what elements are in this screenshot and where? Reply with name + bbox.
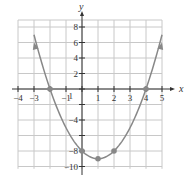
x-tick-label: −4 (13, 93, 23, 103)
y-tick-label: 2 (74, 69, 79, 79)
x-axis-label: x (178, 83, 184, 94)
parabola-chart: xy−4−3−1123458642−4−8−101 (0, 0, 194, 183)
x-tick-label: 1 (96, 93, 101, 103)
y-tick-label: 4 (74, 53, 79, 63)
data-point (143, 86, 149, 92)
y-axis-label: y (78, 1, 84, 12)
x-tick-label: 2 (112, 93, 117, 103)
x-tick-label: 5 (160, 93, 165, 103)
extra-label: 1 (69, 91, 74, 101)
data-point (111, 148, 117, 154)
grid (18, 20, 162, 169)
x-tick-label: −3 (29, 93, 39, 103)
y-tick-label: 6 (74, 38, 79, 48)
y-tick-label: −10 (64, 162, 79, 172)
x-axis-arrow-icon (170, 87, 175, 91)
y-tick-label: −8 (68, 146, 78, 156)
y-tick-label: −4 (68, 115, 78, 125)
y-tick-label: 8 (74, 22, 79, 32)
x-tick-label: 4 (144, 93, 149, 103)
data-point (79, 148, 85, 154)
data-point (95, 156, 101, 162)
x-tick-label: 3 (128, 93, 133, 103)
data-point (47, 86, 53, 92)
